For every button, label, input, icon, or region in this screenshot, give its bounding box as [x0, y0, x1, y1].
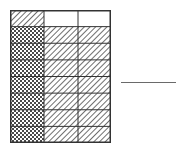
grid-cell-blank	[78, 10, 111, 27]
grid-cell-diagonal	[44, 126, 78, 143]
grid-cell-diagonal	[78, 27, 111, 44]
grid-cell-crosshatch	[10, 77, 44, 94]
grid-cell-diagonal	[78, 110, 111, 127]
grid-cell-crosshatch	[10, 126, 44, 143]
grid-cell-diagonal	[78, 93, 111, 110]
grid-cell-crosshatch	[10, 43, 44, 60]
grid-cell-crosshatch	[10, 110, 44, 127]
grid-cell-diagonal	[44, 93, 78, 110]
answer-blank-line	[121, 82, 176, 83]
grid-cell-diagonal	[78, 60, 111, 77]
grid-cell-blank	[44, 10, 78, 27]
grid-cell-diagonal	[44, 60, 78, 77]
fraction-grid	[10, 10, 111, 143]
grid-cell-diagonal	[78, 77, 111, 94]
grid-cell-diagonal	[44, 77, 78, 94]
grid-cell-crosshatch	[10, 27, 44, 44]
grid-cell-crosshatch	[10, 60, 44, 77]
grid-cell-diagonal	[10, 10, 44, 27]
grid-cell-diagonal	[44, 43, 78, 60]
grid-cell-diagonal	[44, 27, 78, 44]
grid-cell-diagonal	[78, 126, 111, 143]
grid-cell-crosshatch	[10, 93, 44, 110]
grid-cell-diagonal	[78, 43, 111, 60]
grid-cell-diagonal	[44, 110, 78, 127]
